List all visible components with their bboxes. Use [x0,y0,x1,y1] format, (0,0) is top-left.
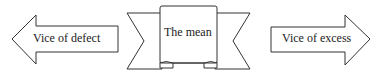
center-ribbon-label: The mean [164,25,212,39]
ribbon-left-wing [127,13,162,69]
left-arrow-label: Vice of defect [33,31,100,45]
ribbon-right-wing [215,13,250,69]
diagram-canvas: Vice of defect The mean Vice of excess [0,0,382,76]
right-arrow-label: Vice of excess [282,31,351,45]
